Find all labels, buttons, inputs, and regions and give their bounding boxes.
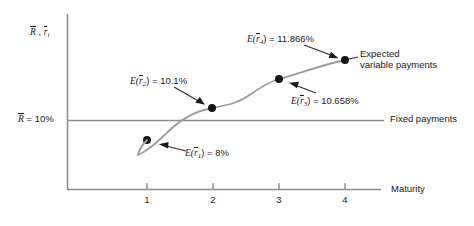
fixed-rate-symbol: R (18, 114, 24, 125)
chart-figure: R , ri R = 10% E(r4) = 11.866% E(r2) = 1… (0, 0, 474, 226)
y-axis-label-r: r (44, 27, 48, 38)
annotation-r3-suffix: ) = 10.658% (307, 95, 359, 106)
y-axis-label: R , ri (30, 26, 49, 41)
annotation-r3-symbol: r (300, 96, 304, 107)
annotation-label-r2: E(r2) = 10.1% (130, 75, 187, 90)
data-point-2 (208, 104, 216, 112)
expected-variable-payments-line2: variable payments (360, 59, 437, 70)
y-axis-label-separator: , (36, 26, 44, 37)
annotation-label-r3: E(r3) = 10.658% (291, 95, 359, 110)
annotation-r1-prefix: E( (185, 148, 194, 158)
y-axis-label-R: R (30, 27, 36, 38)
x-tick-label-3: 3 (276, 194, 281, 205)
annotation-label-r1: E(r1) = 8% (185, 147, 229, 162)
data-point-3 (275, 75, 283, 83)
expected-variable-payments-label: Expected variable payments (360, 48, 437, 70)
arrowhead-r3 (289, 82, 299, 88)
expected-variable-payments-line1: Expected (360, 48, 437, 59)
x-tick-label-1: 1 (144, 194, 149, 205)
annotation-r2-suffix: ) = 10.1% (146, 75, 187, 86)
y-axis-label-r-subscript: i (47, 31, 49, 39)
x-tick-label-4: 4 (342, 194, 347, 205)
data-point-4 (341, 56, 349, 64)
annotation-r2-symbol: r (139, 76, 143, 87)
annotation-r4-prefix: E( (247, 34, 256, 44)
fixed-rate-value: = 10% (24, 113, 54, 124)
arrowhead-r4 (329, 52, 339, 58)
annotation-r2-prefix: E( (130, 76, 139, 86)
annotation-r1-suffix: ) = 8% (201, 147, 229, 158)
leader-line-expected-variable (349, 57, 358, 59)
annotation-r3-prefix: E( (291, 96, 300, 106)
annotation-label-r4: E(r4) = 11.866% (247, 33, 314, 48)
annotation-r4-suffix: ) = 11.866% (263, 33, 314, 44)
fixed-payments-label: Fixed payments (390, 113, 457, 124)
arrowhead-r1 (159, 142, 169, 149)
x-tick-label-2: 2 (210, 194, 215, 205)
x-axis-title: Maturity (391, 183, 425, 194)
arrowhead-r2 (195, 97, 205, 105)
fixed-rate-label: R = 10% (18, 113, 54, 125)
annotation-r4-symbol: r (256, 34, 260, 45)
annotation-r1-symbol: r (194, 148, 198, 159)
